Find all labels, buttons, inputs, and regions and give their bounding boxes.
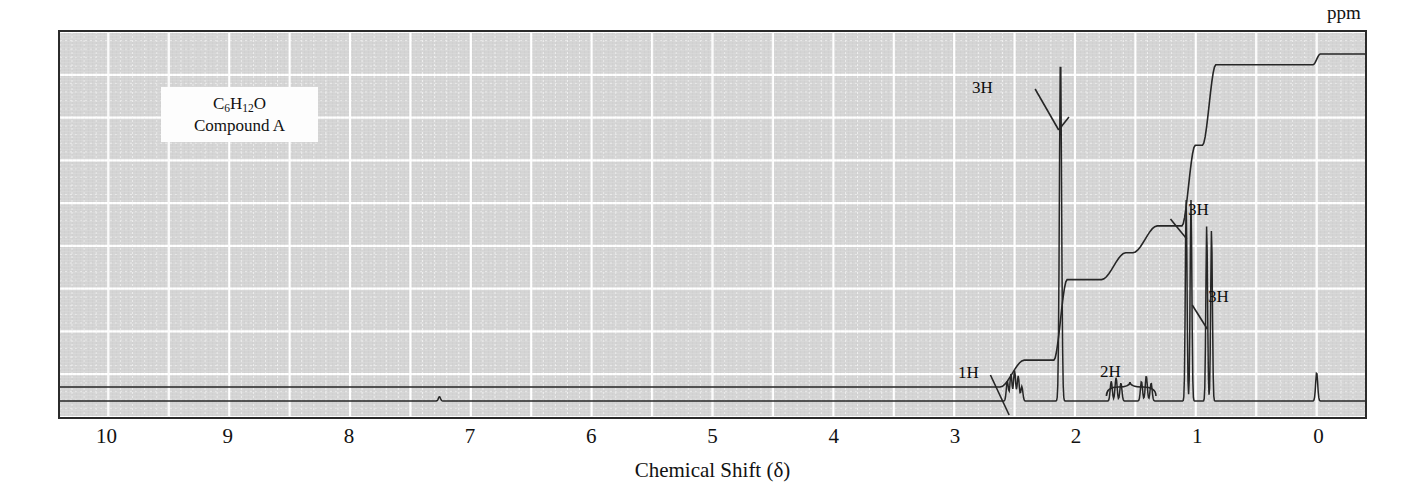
nmr-spectrum-figure: C6H12O Compound A 109876543210 ppm Chemi… <box>0 0 1425 502</box>
annotation-3h-doublet-b: 3H <box>1208 287 1229 307</box>
annotation-2h: 2H <box>1100 362 1121 382</box>
x-tick-label-9: 9 <box>222 424 233 449</box>
spectrum-plot-area: C6H12O Compound A <box>58 30 1367 419</box>
brace-2h <box>1106 382 1156 396</box>
x-tick-label-0: 0 <box>1313 424 1324 449</box>
x-tick-label-2: 2 <box>1071 424 1082 449</box>
x-tick-label-7: 7 <box>465 424 476 449</box>
annotation-leader-lines <box>990 89 1207 415</box>
compound-name: Compound A <box>194 115 285 136</box>
x-tick-label-6: 6 <box>586 424 597 449</box>
x-tick-label-4: 4 <box>828 424 839 449</box>
annotation-3h-acetyl: 3H <box>972 78 993 98</box>
x-tick-label-8: 8 <box>344 424 355 449</box>
compound-label-box: C6H12O Compound A <box>161 87 318 142</box>
ppm-unit-label: ppm <box>1327 2 1361 24</box>
annotation-1h: 1H <box>958 363 979 383</box>
x-tick-label-10: 10 <box>96 424 117 449</box>
x-tick-label-5: 5 <box>707 424 718 449</box>
x-tick-label-3: 3 <box>950 424 961 449</box>
molecular-formula: C6H12O <box>213 93 266 115</box>
formula-h-count: 12 <box>242 102 254 114</box>
formula-h: H <box>230 94 242 113</box>
formula-o: O <box>254 94 266 113</box>
x-axis-tick-labels: 109876543210 <box>0 424 1425 454</box>
x-tick-label-1: 1 <box>1192 424 1203 449</box>
formula-c: C <box>213 94 224 113</box>
annotation-3h-doublet-a: 3H <box>1188 200 1209 220</box>
x-axis-title: Chemical Shift (δ) <box>0 458 1425 483</box>
